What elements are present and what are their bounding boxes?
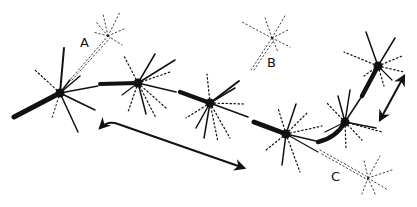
label-c: C [331,170,340,183]
neuron-chain-diagram [0,0,417,207]
neuron-5 [325,90,382,148]
degenerating-neuron-a [68,12,126,82]
axon-connections [14,66,378,142]
label-b: B [267,56,276,69]
neuron-3 [186,74,244,142]
label-a: A [80,36,89,49]
neuron-1 [35,48,95,132]
main-flow-arrow [100,123,244,168]
degenerating-neuron-b [242,14,290,70]
neuron-4 [266,104,322,172]
